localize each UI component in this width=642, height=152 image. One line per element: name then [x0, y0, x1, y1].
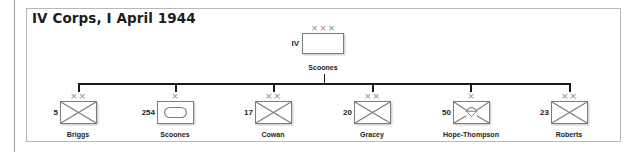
- echelon-marker-division: ××: [354, 91, 391, 101]
- unit-designation: 20: [329, 108, 352, 117]
- unit-designation: 50: [428, 108, 451, 117]
- commander-name: Cowan: [247, 130, 300, 139]
- commander-name: Gracey: [346, 130, 399, 139]
- page-margin-rule: [14, 0, 15, 152]
- unit-designation: IV: [280, 39, 299, 48]
- unit-designation: 23: [526, 108, 549, 117]
- echelon-marker-brigade: ×: [453, 91, 490, 101]
- armour-symbol-icon: [157, 101, 194, 124]
- echelon-marker-division: ××: [551, 91, 588, 101]
- chart-title: IV Corps, I April 1944: [32, 10, 196, 26]
- echelon-marker-brigade: ×: [157, 91, 194, 101]
- echelon-marker-corps: ×××: [302, 23, 345, 33]
- unit-designation: 5: [36, 108, 58, 117]
- connector-hq-drop: [324, 74, 325, 83]
- commander-name: Briggs: [52, 130, 105, 139]
- infantry-symbol-icon: [255, 101, 292, 124]
- commander-name: Roberts: [543, 130, 596, 139]
- parachute-infantry-symbol-icon: [453, 101, 490, 124]
- infantry-symbol-icon: [60, 101, 97, 124]
- infantry-symbol-icon: [551, 101, 588, 124]
- echelon-marker-division: ××: [60, 91, 97, 101]
- commander-name: Scoones: [149, 130, 202, 139]
- connector-horizontal-bus: [78, 83, 570, 85]
- unit-designation: 17: [230, 108, 253, 117]
- unit-symbol-hq: [302, 33, 344, 54]
- infantry-symbol-icon: [354, 101, 391, 124]
- unit-designation: 254: [130, 108, 155, 117]
- commander-name: Scoones: [297, 63, 350, 72]
- echelon-marker-division: ××: [255, 91, 292, 101]
- commander-name: Hope-Thompson: [436, 130, 506, 139]
